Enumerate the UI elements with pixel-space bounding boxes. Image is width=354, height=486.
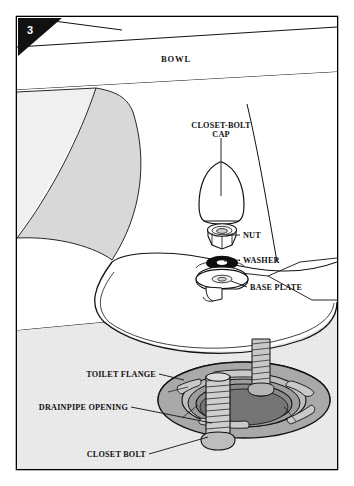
illustration-figure: 3 BOWL CLOSET-BOLT CAP NUT WASHER BASE P… [0,0,354,486]
closet-bolt-front-tip [206,373,230,381]
label-closet-bolt-cap-line1: CLOSET-BOLT [191,121,251,130]
closet-bolt-front [201,373,235,450]
toilet-flange [158,362,330,438]
closet-bolt-front-head [201,432,235,450]
illustration-canvas: 3 BOWL CLOSET-BOLT CAP NUT WASHER BASE P… [0,0,354,486]
label-bowl: BOWL [161,54,191,64]
label-toilet-flange: TOILET FLANGE [86,370,156,379]
nut-bore [217,229,228,234]
label-nut: NUT [243,231,261,240]
label-closet-bolt-cap-line2: CAP [212,130,229,139]
label-washer: WASHER [243,256,280,265]
closet-bolt-rear-head [248,383,274,396]
hex-nut [208,224,237,249]
label-base-plate: BASE PLATE [250,283,302,292]
label-closet-bolt: CLOSET BOLT [87,450,147,459]
label-drainpipe-opening: DRAINPIPE OPENING [39,403,129,412]
step-number: 3 [27,24,33,36]
base-plate-hole [218,277,227,281]
scene: 3 [17,17,337,469]
closet-bolt-rear [248,339,274,396]
